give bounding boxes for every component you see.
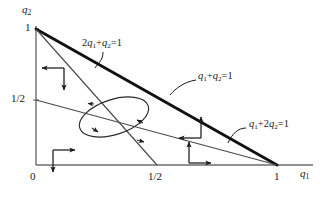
- y-tick-label-one: 1: [25, 22, 31, 33]
- cycle-arrow-upper-left: [88, 104, 94, 105]
- region-upper-left-arrows: [42, 68, 64, 90]
- x-axis-label: q1: [300, 168, 309, 180]
- x-tick-label-half: 1/2: [148, 171, 162, 182]
- y-axis-label: q2: [22, 4, 31, 16]
- x-tick-label-zero: 0: [30, 171, 36, 182]
- leader-q1-plus-q2: [170, 80, 196, 95]
- y-tick-label-half: 1/2: [11, 93, 25, 104]
- line-q1-plus-2q2: [36, 100, 277, 165]
- region-lower-left-arrows: [53, 150, 75, 172]
- cycle-arrow-lower-left: [92, 128, 98, 132]
- cycle-arrow-lower-right: [137, 140, 144, 142]
- line-q1-plus-q2: [36, 29, 277, 165]
- equation-label-q1-plus-2q2: q1+2q2=1: [249, 119, 289, 131]
- region-lower-right-arrows: [189, 142, 211, 163]
- equation-label-q1-plus-q2: q1+q2=1: [198, 71, 233, 83]
- axis-lines: [36, 26, 313, 165]
- equation-label-2q1-plus-q2: 2q1+q2=1: [82, 38, 122, 50]
- figure-canvas: q2 q1 1 1/2 0 1/2 1 2q1+q2=1 q1+q2=1 q1+…: [0, 0, 324, 199]
- x-tick-label-one: 1: [274, 171, 280, 182]
- leader-q1-plus-2q2: [228, 128, 246, 143]
